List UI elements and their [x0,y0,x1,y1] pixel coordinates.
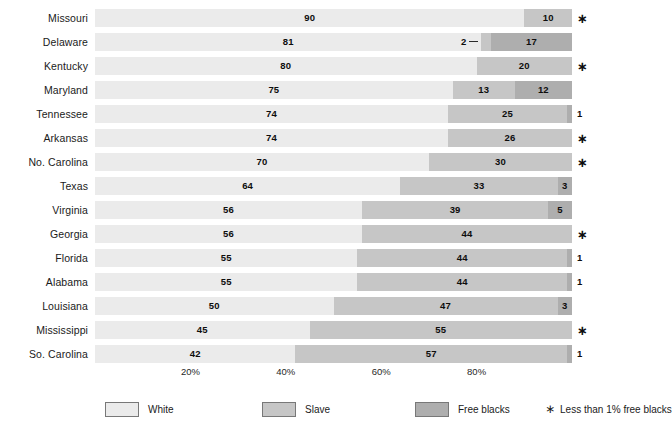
segment-value-callout: 2 [461,33,478,51]
segment-value: 10 [524,9,572,27]
legend-label: White [148,404,174,415]
row-label-so-carolina: So. Carolina [0,342,88,366]
segment-value: 74 [95,129,448,147]
callout-leader-line [469,41,478,42]
segment-slave: 39 [362,201,548,219]
segment-white: 90 [95,9,524,27]
segment-value: 26 [448,129,572,147]
segment-value: 56 [95,201,362,219]
row-footnote-star: ∗ [577,126,588,150]
x-tick-label: 20% [181,366,200,377]
row-label-delaware: Delaware [0,30,88,54]
segment-value: 80 [95,57,477,75]
segment-value: 44 [357,249,567,267]
stacked-bar: 50473 [95,297,572,315]
row-label-louisiana: Louisiana [0,294,88,318]
segment-value: 64 [95,177,400,195]
row-footnote-star: ∗ [577,6,588,30]
segment-free-blacks: 17 [491,33,572,51]
segment-free-blacks [567,345,572,363]
segment-value: 47 [334,297,558,315]
stacked-bar: 56395 [95,201,572,219]
segment-white: 70 [95,153,429,171]
segment-slave: 33 [400,177,557,195]
segment-value: 3 [558,177,572,195]
x-tick-label: 80% [467,366,486,377]
segment-free-blacks [567,273,572,291]
segment-white: 74 [95,105,448,123]
row-label-kentucky: Kentucky [0,54,88,78]
stacked-bar: 5544 [95,249,572,267]
segment-value: 13 [453,81,515,99]
legend-label: Slave [305,404,330,415]
segment-value: 90 [95,9,524,27]
chart-row: Missouri9010∗ [0,6,597,30]
legend-swatch-icon [262,402,296,417]
legend-footnote: ∗Less than 1% free blacks [545,398,672,420]
x-tick-label: 60% [372,366,391,377]
row-label-no-carolina: No. Carolina [0,150,88,174]
segment-value: 55 [310,321,572,339]
segment-value: 70 [95,153,429,171]
chart-row: Delaware81217 [0,30,597,54]
chart-row: So. Carolina42571 [0,342,597,366]
segment-white: 45 [95,321,310,339]
row-free-blacks-value: 1 [577,270,582,294]
chart-row: Tennessee74251 [0,102,597,126]
row-footnote-star: ∗ [577,54,588,78]
stacked-bar: 7030 [95,153,572,171]
row-footnote-star: ∗ [577,318,588,342]
segment-slave: 57 [295,345,567,363]
legend-swatch-icon [415,402,449,417]
chart-row: No. Carolina7030∗ [0,150,597,174]
segment-value: 44 [357,273,567,291]
row-footnote-star: ∗ [577,150,588,174]
segment-value: 56 [95,225,362,243]
stacked-bar: 4257 [95,345,572,363]
segment-value: 55 [95,249,357,267]
segment-value: 55 [95,273,357,291]
legend-label: Free blacks [458,404,510,415]
segment-slave: 47 [334,297,558,315]
segment-white: 81 [95,33,481,51]
segment-value: 30 [429,153,572,171]
segment-slave: 25 [448,105,567,123]
row-footnote-star: ∗ [577,222,588,246]
segment-free-blacks: 3 [558,297,572,315]
x-tick-label: 40% [276,366,295,377]
segment-slave: 44 [357,249,567,267]
stacked-bar: 5644 [95,225,572,243]
stacked-bar: 81217 [95,33,572,51]
segment-free-blacks: 5 [548,201,572,219]
chart-row: Louisiana50473 [0,294,597,318]
segment-white: 42 [95,345,295,363]
segment-slave: 30 [429,153,572,171]
segment-free-blacks [567,105,572,123]
segment-value: 44 [362,225,572,243]
segment-white: 74 [95,129,448,147]
stacked-bar: 751312 [95,81,572,99]
segment-value: 20 [477,57,572,75]
segment-white: 55 [95,273,357,291]
segment-slave: 26 [448,129,572,147]
legend-item-free-blacks[interactable]: Free blacks [415,398,510,420]
segment-slave: 44 [357,273,567,291]
segment-value: 45 [95,321,310,339]
chart-legend: WhiteSlaveFree blacks∗Less than 1% free … [0,398,597,424]
segment-value: 50 [95,297,334,315]
chart-row: Virginia56395 [0,198,597,222]
segment-white: 56 [95,201,362,219]
chart-row: Florida55441 [0,246,597,270]
legend-item-white[interactable]: White [105,398,174,420]
asterisk-icon: ∗ [545,404,555,414]
row-label-alabama: Alabama [0,270,88,294]
segment-white: 55 [95,249,357,267]
stacked-bar: 9010 [95,9,572,27]
legend-item-slave[interactable]: Slave [262,398,330,420]
segment-free-blacks [567,249,572,267]
segment-white: 50 [95,297,334,315]
segment-value: 42 [95,345,295,363]
row-free-blacks-value: 1 [577,246,582,270]
stacked-bar: 7425 [95,105,572,123]
chart-row: Alabama55441 [0,270,597,294]
